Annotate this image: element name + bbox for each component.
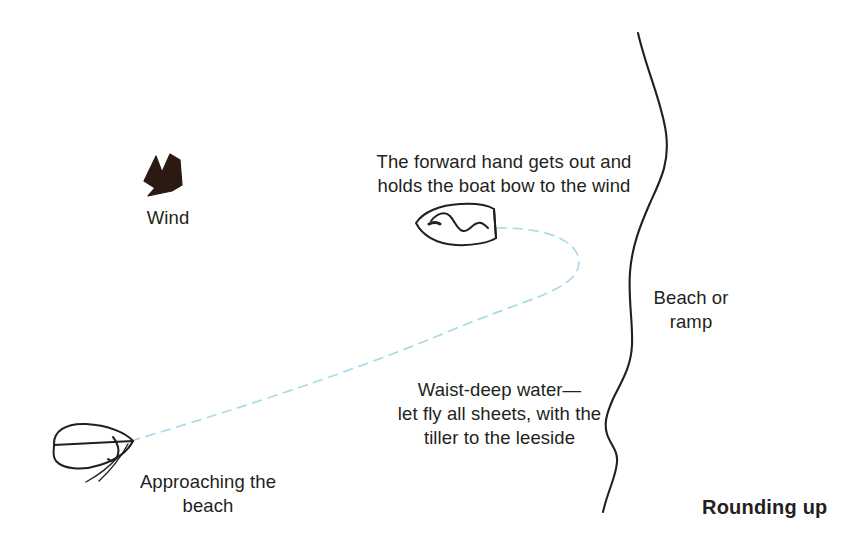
figure-title: Rounding up (702, 494, 852, 520)
waist-deep-note: Waist-deep water— let fly all sheets, wi… (392, 378, 607, 450)
beach-or-ramp-label: Beach or ramp (636, 286, 746, 334)
forward-hand-note: The forward hand gets out and holds the … (372, 150, 636, 198)
approaching-beach-label: Approaching the beach (118, 470, 298, 518)
wind-label: Wind (108, 206, 228, 230)
rounding-up-diagram: Wind The forward hand gets out and holds… (0, 0, 863, 558)
